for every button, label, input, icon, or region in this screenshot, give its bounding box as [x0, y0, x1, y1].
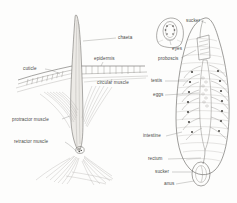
label-circular-muscle: circular muscle [97, 80, 129, 85]
leader-intestine [166, 132, 182, 136]
label-retractor-muscle: retractor muscle [14, 139, 49, 144]
label-eggs: eggs [153, 92, 164, 97]
chaeta-figure: cuticle epidermis circular muscle [12, 15, 148, 185]
label-sucker-posterior: sucker [155, 169, 169, 174]
retractor-muscle-fibers [36, 156, 113, 185]
anterior-sucker-inset [157, 18, 184, 48]
label-cuticle: cuticle [23, 66, 37, 71]
chaeta-bristle [71, 15, 85, 153]
eyes-dots [165, 25, 176, 35]
label-intestine: intestine [143, 133, 161, 138]
leader-chaeta [83, 38, 116, 41]
illustration-plate: cuticle epidermis circular muscle [0, 0, 237, 203]
leader-protractor-muscle [62, 116, 70, 119]
leech-body [176, 18, 229, 175]
label-anus: anus [164, 181, 175, 186]
leader-sucker-anterior [201, 21, 206, 23]
label-protractor-muscle: protractor muscle [12, 117, 49, 122]
leader-anus [176, 181, 194, 184]
eggs-cluster [202, 77, 209, 107]
leader-epidermis [101, 62, 103, 66]
label-sucker-anterior: sucker [186, 18, 200, 23]
label-rectum: rectum [148, 156, 163, 161]
intestine-caeca [182, 60, 228, 164]
testis-dots [187, 70, 223, 133]
leader-retractor-muscle [65, 142, 76, 151]
leech-figure: sucker eyes proboscis testis eggs intest… [143, 18, 229, 186]
label-proboscis: proboscis [158, 56, 179, 61]
proboscis [197, 20, 210, 60]
label-epidermis: epidermis [94, 56, 115, 61]
label-eyes: eyes [172, 46, 183, 51]
leader-eyes [170, 41, 171, 45]
label-chaeta: chaeta [118, 35, 133, 40]
label-testis: testis [151, 78, 163, 83]
annuli [176, 39, 229, 161]
